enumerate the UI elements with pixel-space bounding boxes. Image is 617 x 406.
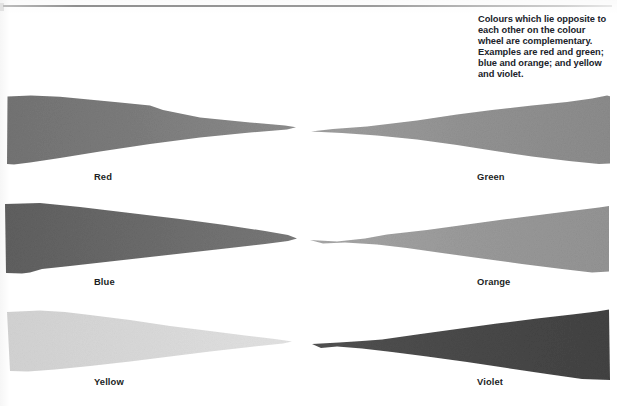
wedge-label-violet: Violet (477, 376, 503, 387)
wedge-row-3: Yellow (0, 298, 617, 406)
wedge-shape-yellow (0, 298, 310, 380)
caption-line: each other on the colour (478, 25, 610, 36)
top-horizontal-rule (3, 5, 612, 7)
wedge-shape-green (307, 88, 617, 170)
caption-line: blue and orange; and yellow (478, 58, 610, 69)
wedge-label-red: Red (94, 171, 112, 182)
wedge-cell-blue: Blue (0, 193, 310, 298)
caption-text: Colours which lie opposite to each other… (478, 14, 610, 79)
wedge-row-2: Blue (0, 193, 617, 298)
wedge-cell-yellow: Yellow (0, 298, 310, 406)
wedge-label-green: Green (477, 171, 505, 182)
wedge-cell-red: Red (0, 88, 310, 193)
wedge-cell-violet: Violet (307, 298, 617, 406)
wedge-shape-orange (307, 193, 617, 275)
wedge-cell-green: Green (307, 88, 617, 193)
wedge-row-1: Red (0, 88, 617, 193)
wedge-label-blue: Blue (94, 276, 115, 287)
caption-line: and violet. (478, 69, 610, 80)
wedge-shape-violet (307, 298, 617, 380)
caption-line: wheel are complementary. (478, 36, 610, 47)
wedge-cell-orange: Orange (307, 193, 617, 298)
wedge-shape-red (0, 88, 310, 170)
diagram-page: Colours which lie opposite to each other… (0, 0, 617, 406)
wedge-label-yellow: Yellow (94, 376, 124, 387)
caption-line: Examples are red and green; (478, 47, 610, 58)
caption-line: Colours which lie opposite to (478, 14, 610, 25)
wedge-label-orange: Orange (477, 276, 510, 287)
wedge-shape-blue (0, 193, 310, 275)
